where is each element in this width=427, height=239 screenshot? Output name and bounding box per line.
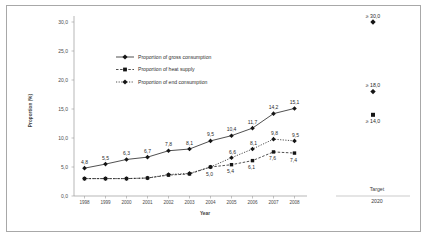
y-tick-label: 25,0	[38, 48, 68, 54]
data-point-marker	[370, 89, 375, 94]
data-point-marker	[103, 162, 108, 167]
data-label: 11,7	[240, 119, 266, 125]
y-tick-label: 30,0	[38, 19, 68, 25]
data-label: 8,1	[241, 140, 267, 146]
data-point-marker	[82, 166, 87, 171]
x-tick-label: 2008	[280, 200, 310, 205]
data-point-marker	[229, 133, 234, 138]
data-label: 7,4	[281, 157, 307, 163]
data-point-marker	[166, 148, 171, 153]
data-point-marker	[272, 150, 275, 153]
y-tick-label: 15,0	[38, 106, 68, 112]
chart-figure: Proportion (%) Year Target 2020 0,05,010…	[0, 0, 427, 239]
data-label: 15,1	[282, 99, 308, 105]
data-point-marker	[187, 147, 192, 152]
data-point-marker	[122, 79, 127, 84]
legend-label-3: Proportion of end consumption	[138, 79, 207, 85]
data-label: 6,7	[135, 148, 161, 154]
data-point-marker	[230, 163, 233, 166]
y-tick-label: 5,0	[38, 164, 68, 170]
data-point-marker	[292, 139, 297, 144]
data-point-marker	[271, 137, 276, 142]
data-point-marker	[250, 147, 255, 152]
data-point-marker	[229, 155, 234, 160]
y-tick-label: 0,0	[38, 193, 68, 199]
target-value-label: ≥ 18,0	[351, 82, 395, 88]
data-point-marker	[250, 126, 255, 131]
target-value-label: ≥ 30,0	[351, 13, 395, 19]
data-label: 6,1	[239, 164, 265, 170]
data-point-marker	[123, 68, 127, 72]
data-point-marker	[293, 151, 296, 154]
data-point-marker	[271, 111, 276, 116]
y-tick-label: 20,0	[38, 77, 68, 83]
data-label: 14,2	[261, 104, 287, 110]
data-point-marker	[371, 113, 375, 117]
data-point-marker	[370, 19, 375, 24]
data-label: 9,5	[198, 131, 224, 137]
data-label: 8,1	[177, 140, 203, 146]
data-label: 10,4	[219, 126, 245, 132]
data-point-marker	[122, 54, 127, 59]
legend-label-2: Proportion of heat supply	[138, 66, 195, 72]
data-point-marker	[251, 159, 254, 162]
data-point-marker	[124, 157, 129, 162]
data-label: 9,5	[283, 132, 309, 138]
data-point-marker	[292, 106, 297, 111]
data-point-marker	[145, 155, 150, 160]
y-tick-label: 10,0	[38, 135, 68, 141]
target-value-label: ≥ 14,0	[351, 118, 395, 124]
legend-label-1: Proportion of gross consumption	[138, 54, 211, 60]
data-point-marker	[208, 139, 213, 144]
data-label: 6,6	[220, 149, 246, 155]
